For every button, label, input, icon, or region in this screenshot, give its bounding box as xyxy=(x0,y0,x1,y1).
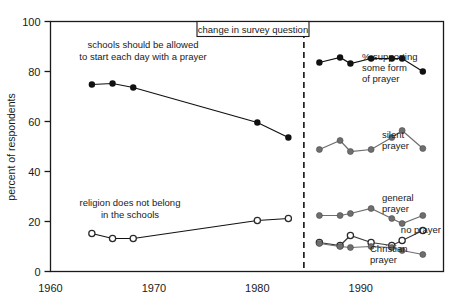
data-point-filled xyxy=(254,119,260,125)
data-point-open xyxy=(254,217,260,223)
x-tick-label: 1990 xyxy=(349,282,373,294)
data-point-filled xyxy=(130,84,136,90)
data-point-grey xyxy=(347,211,353,217)
data-point-open xyxy=(347,232,353,238)
data-point-filled xyxy=(109,80,115,86)
data-point-filled xyxy=(89,81,95,87)
data-point-grey xyxy=(337,244,343,250)
legend-christian-line-2: prayer xyxy=(370,254,397,265)
data-point-grey xyxy=(420,213,426,219)
y-tick-label: 40 xyxy=(28,166,40,178)
y-tick-label: 60 xyxy=(28,116,40,128)
data-point-grey xyxy=(316,241,322,247)
legend-christian-line-1: Christian xyxy=(370,243,408,254)
data-point-grey xyxy=(316,147,322,153)
data-point-filled xyxy=(316,59,322,65)
y-axis-title: percent of respondents xyxy=(5,93,17,200)
data-point-grey xyxy=(368,147,374,153)
data-point-open xyxy=(130,235,136,241)
y-tick-label: 100 xyxy=(22,16,40,28)
data-point-filled xyxy=(337,54,343,60)
legend-supporting-line-2: some form xyxy=(362,62,407,73)
data-point-grey xyxy=(420,146,426,152)
data-point-grey xyxy=(337,138,343,144)
x-tick-label: 1980 xyxy=(245,282,269,294)
legend-no-prayer-label: no prayer xyxy=(401,224,441,235)
data-point-grey xyxy=(420,252,426,258)
data-point-open xyxy=(109,235,115,241)
legend-supporting-line-1: % supporting xyxy=(362,51,417,62)
old-question-line-1: schools should be allowed xyxy=(88,39,199,50)
data-point-grey xyxy=(347,245,353,251)
legend-no-prayer: no prayer xyxy=(401,224,441,235)
chart-figure: 020406080100 1960197019801990 percent of… xyxy=(0,0,456,308)
y-tick-label: 0 xyxy=(34,266,40,278)
x-tick-label: 1960 xyxy=(38,282,62,294)
religion-line-2: in the schools xyxy=(101,209,159,220)
legend-general-line-2: prayer xyxy=(382,203,409,214)
legend-general-line-1: general xyxy=(382,192,414,203)
y-tick-label: 80 xyxy=(28,66,40,78)
data-point-filled xyxy=(285,134,291,140)
data-point-grey xyxy=(316,213,322,219)
y-tick-label: 20 xyxy=(28,216,40,228)
data-point-open xyxy=(285,215,291,221)
prayer-in-schools-line-chart: 020406080100 1960197019801990 percent of… xyxy=(0,0,456,308)
legend-silent-line-2: prayer xyxy=(382,140,409,151)
data-point-grey xyxy=(347,149,353,155)
change-in-survey-question-callout: change in survey question xyxy=(197,22,309,37)
data-point-filled xyxy=(420,68,426,74)
old-question-annotation: schools should be allowed to start each … xyxy=(79,39,206,62)
data-point-grey xyxy=(368,206,374,212)
religion-line-1: religion does not belong xyxy=(80,197,181,208)
data-point-grey xyxy=(337,213,343,219)
legend-silent-line-1: silent xyxy=(382,129,405,140)
callout-box-label: change in survey question xyxy=(198,24,308,35)
data-point-filled xyxy=(347,60,353,66)
old-question-line-2: to start each day with a prayer xyxy=(79,51,206,62)
data-point-grey xyxy=(389,216,395,222)
x-tick-label: 1970 xyxy=(142,282,166,294)
data-point-open xyxy=(89,230,95,236)
legend-supporting-line-3: of prayer xyxy=(362,73,400,84)
